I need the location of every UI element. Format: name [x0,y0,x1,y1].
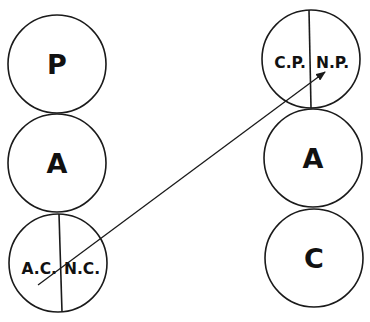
right-adult-label: A [303,143,324,174]
left-parent-label: P [47,49,67,80]
right-column: C.P. N.P. A C [262,10,363,307]
left-child-divider [59,214,62,312]
right-parent-circle: C.P. N.P. [262,10,360,108]
nurturing-parent-label: N.P. [316,54,349,72]
right-parent-divider [309,10,311,108]
natural-child-label: N.C. [64,260,100,278]
transaction-arrow [38,72,325,285]
right-adult-circle: A [264,109,362,207]
ego-state-diagram: P A A.C. N.C. C.P. N.P. A C [0,0,370,322]
critical-parent-label: C.P. [274,54,306,72]
right-child-circle: C [265,209,363,307]
left-child-circle: A.C. N.C. [9,214,107,312]
left-adult-label: A [47,148,68,179]
right-child-label: C [304,243,324,274]
left-column: P A A.C. N.C. [8,15,107,312]
left-adult-circle: A [8,114,106,212]
left-parent-circle: P [8,15,106,113]
